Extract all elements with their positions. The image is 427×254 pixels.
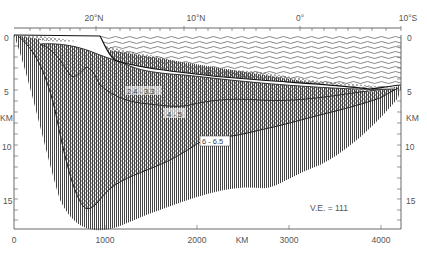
layer-3-label: 4 - 5 — [167, 110, 182, 119]
top-label-10s: 10°S — [399, 13, 418, 23]
layer-4-label: 6 - 6.5 — [202, 137, 223, 146]
bottom-tick-4000: 4000 — [372, 235, 391, 245]
cross-section-figure: 20°N 10°N 0° 10°S 0 5 KM 10 15 0 5 KM 10… — [0, 0, 427, 254]
right-tick-10: 10 — [405, 142, 415, 152]
bottom-tick-1000: 1000 — [96, 235, 115, 245]
right-axis-unit: KM — [406, 113, 419, 123]
top-label-10n: 10°N — [187, 13, 206, 23]
bottom-axis-unit: KM — [236, 235, 249, 245]
layer-2-label: 2.4 - 3.3 — [127, 87, 155, 96]
bottom-tick-0: 0 — [12, 235, 17, 245]
top-label-20n: 20°N — [85, 13, 104, 23]
left-axis-ticks — [14, 46, 18, 220]
left-tick-10: 10 — [2, 142, 12, 152]
top-axis-ticks — [30, 26, 401, 31]
bottom-tick-2000: 2000 — [188, 235, 207, 245]
right-tick-5: 5 — [407, 87, 412, 97]
bottom-axis-ticks — [105, 225, 381, 229]
left-tick-5: 5 — [4, 87, 9, 97]
bottom-tick-3000: 3000 — [280, 235, 299, 245]
left-axis-unit: KM — [0, 113, 13, 123]
left-tick-0: 0 — [4, 33, 9, 43]
vertical-exaggeration-note: V.E. = 111 — [310, 203, 348, 213]
right-tick-15: 15 — [406, 196, 416, 206]
left-tick-15: 15 — [3, 196, 13, 206]
top-label-0: 0° — [296, 13, 304, 23]
right-tick-0: 0 — [407, 33, 412, 43]
